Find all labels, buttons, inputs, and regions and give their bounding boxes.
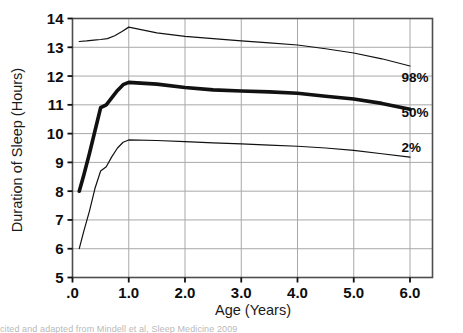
- y-tick-label: 11: [48, 96, 64, 113]
- x-tick-label: 3.0: [231, 284, 252, 301]
- x-tick-label: .0: [66, 284, 79, 301]
- x-tick-label: 2.0: [175, 284, 196, 301]
- y-tick-label: 13: [47, 39, 64, 56]
- x-axis-title: Age (Years): [215, 302, 291, 318]
- x-tick-label: 5.0: [343, 284, 364, 301]
- series-label-98pct: 98%: [402, 70, 429, 85]
- sleep-duration-chart-figure: 567891011121314.01.02.03.04.05.06.0 98%5…: [0, 0, 463, 333]
- series-label-2pct: 2%: [402, 140, 422, 155]
- chart-canvas: 567891011121314.01.02.03.04.05.06.0 98%5…: [0, 0, 463, 333]
- y-tick-label: 5: [55, 269, 63, 286]
- source-caption: cited and adapted from Mindell et al, Sl…: [0, 324, 463, 333]
- x-tick-label: 1.0: [118, 284, 139, 301]
- y-tick-label: 8: [55, 183, 63, 200]
- x-tick-label: 4.0: [287, 284, 308, 301]
- y-tick-label: 14: [47, 10, 64, 27]
- y-tick-label: 7: [55, 211, 63, 228]
- y-tick-label: 6: [55, 240, 63, 257]
- y-axis-title: Duration of Sleep (Hours): [9, 68, 25, 232]
- y-tick-label: 12: [47, 68, 64, 85]
- y-tick-label: 10: [47, 125, 64, 142]
- series-label-50pct: 50%: [402, 105, 429, 120]
- x-tick-label: 6.0: [400, 284, 421, 301]
- y-tick-label: 9: [55, 154, 63, 171]
